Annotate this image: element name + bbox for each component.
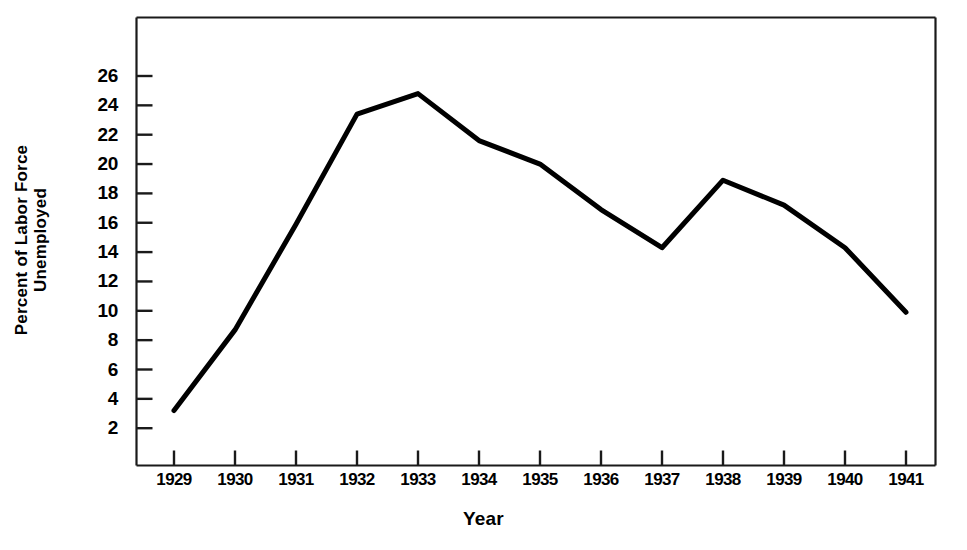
data-series-line: [174, 94, 906, 411]
plot-area: [0, 0, 967, 550]
unemployment-line-chart: Percent of Labor Force Unemployed 246810…: [0, 0, 967, 550]
y-axis-ticks: [137, 76, 153, 428]
unemployment-rate-line: [174, 94, 906, 411]
plot-frame: [137, 18, 936, 466]
x-axis-ticks: [174, 451, 906, 466]
